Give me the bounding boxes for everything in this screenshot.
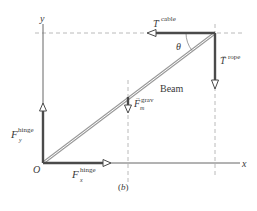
f-hinge-y-arrowhead-icon [40,103,47,111]
svg-text:grav: grav [141,96,154,104]
svg-text:hinge: hinge [18,126,34,134]
y-axis-label: y [39,13,45,24]
theta-label: θ [176,41,181,52]
svg-text:x: x [79,177,83,183]
theta-arc [186,33,192,51]
f-hinge-x-arrowhead-icon [103,160,111,167]
t-rope-arrowhead-icon [212,80,219,89]
svg-text:cable: cable [161,15,176,23]
f-hinge-x-label: F x hinge [71,166,96,183]
f-hinge-y-label: F y hinge [10,126,34,143]
x-axis-label: x [241,158,247,169]
t-cable-label: → T cable [153,15,176,29]
beam-label: Beam [160,83,184,94]
f-grav-arrowhead-icon [125,105,132,113]
free-body-diagram: y x O θ Beam (b) → T cable → T rope → F … [0,0,257,211]
caption: (b) [118,182,129,192]
f-grav-label: → F m grav [133,95,154,111]
origin-label: O [33,164,40,175]
svg-text:hinge: hinge [80,166,96,174]
svg-text:rope: rope [228,53,240,61]
t-rope-label: → T rope [220,53,240,66]
svg-text:F: F [10,128,18,140]
svg-text:y: y [18,137,22,143]
svg-text:m: m [140,105,145,111]
t-cable-arrowhead-icon [147,30,156,37]
svg-text:F: F [71,168,79,180]
